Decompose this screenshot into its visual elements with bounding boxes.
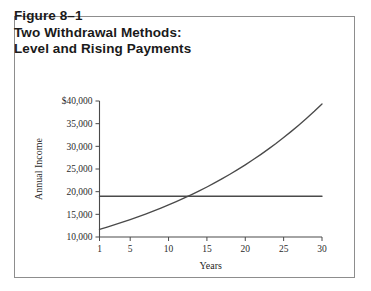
x-axis-tick-label: 1 (97, 244, 102, 254)
series-line-rising-payments (100, 104, 323, 229)
y-axis-tick-label: 25,000 (66, 164, 92, 174)
y-axis-tick-label: 20,000 (66, 187, 92, 197)
chart-plot-area: 10,00015,00020,00025,00030,00035,000$40,… (0, 0, 341, 262)
y-axis-tick-label: 15,000 (66, 210, 92, 220)
x-axis-title: Years (200, 260, 222, 271)
chart-svg: 10,00015,00020,00025,00030,00035,000$40,… (0, 0, 371, 291)
x-axis-tick-label: 15 (202, 244, 212, 254)
x-axis-tick-label: 20 (241, 244, 251, 254)
y-axis-tick-label: 30,000 (66, 142, 92, 152)
chart-series-group (100, 104, 323, 229)
y-axis-title: Annual Income (33, 137, 44, 199)
y-axis: 10,00015,00020,00025,00030,00035,000$40,… (62, 96, 100, 242)
y-axis-tick-label: 10,000 (66, 232, 92, 242)
y-axis-tick-label: $40,000 (62, 96, 93, 106)
x-axis-tick-label: 25 (279, 244, 289, 254)
y-axis-tick-label: 35,000 (66, 119, 92, 129)
x-axis-tick-label: 10 (164, 244, 174, 254)
x-axis-tick-label: 30 (317, 244, 327, 254)
x-axis-tick-label: 5 (128, 244, 133, 254)
x-axis: 151015202530 (97, 237, 327, 254)
